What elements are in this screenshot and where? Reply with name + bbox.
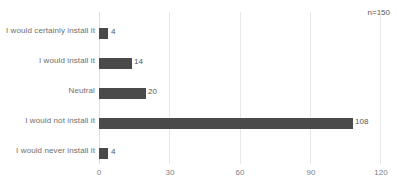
- bar-value-label: 14: [134, 57, 143, 66]
- bar-value-label: 4: [111, 147, 115, 156]
- bar-rows: I would certainly install it 4 I would i…: [0, 12, 401, 164]
- category-label: I would never install it: [16, 146, 95, 155]
- bar-chart: n=150 I would certainly install it 4 I w…: [0, 0, 401, 193]
- category-label: Neutral: [69, 86, 96, 95]
- x-tick-label: 0: [97, 168, 101, 177]
- x-tick-label: 30: [166, 168, 175, 177]
- bar-row: I would never install it 4: [0, 148, 401, 159]
- bar-segment: [99, 148, 108, 159]
- bar-row: Neutral 20: [0, 88, 401, 99]
- category-label: I would not install it: [25, 116, 95, 125]
- bar-segment: [99, 118, 353, 129]
- bar-value-label: 108: [355, 117, 368, 126]
- category-label: I would install it: [39, 56, 95, 65]
- bar-row: I would install it 14: [0, 58, 401, 69]
- x-tick-label: 120: [374, 168, 387, 177]
- bar-segment: [99, 28, 108, 39]
- x-axis-ticks: 0 30 60 90 120: [0, 168, 401, 182]
- bar-segment: [99, 88, 146, 99]
- x-tick-label: 90: [307, 168, 316, 177]
- category-label: I would certainly install it: [6, 26, 95, 35]
- x-tick-label: 60: [236, 168, 245, 177]
- bar-value-label: 20: [148, 87, 157, 96]
- bar-value-label: 4: [111, 27, 115, 36]
- bar-segment: [99, 58, 132, 69]
- bar-row: I would not install it 108: [0, 118, 401, 129]
- bar-row: I would certainly install it 4: [0, 28, 401, 39]
